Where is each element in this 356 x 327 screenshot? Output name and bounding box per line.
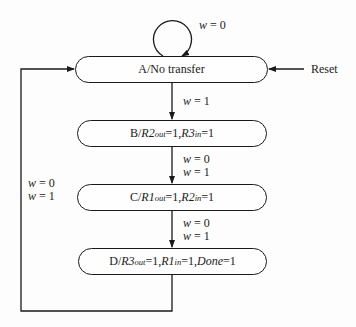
state-c-name: C [130,190,138,205]
state-c: C/R1out = 1, R2in = 1 [77,184,267,211]
state-d-name: D [109,254,118,269]
state-a: A/No transfer [75,56,268,83]
label-a-to-b: w = 1 [183,95,210,107]
label-d-to-a-w0: w = 0 [28,177,55,189]
label-b-to-c-w1: w = 1 [183,166,210,178]
state-diagram: A/No transfer B/R2out = 1, R3in = 1 C/R1… [0,0,356,327]
label-c-to-d-w1: w = 1 [183,230,210,242]
state-b-name: B [130,126,138,141]
label-a-self-loop: w = 0 [199,19,226,31]
state-b: B/R2out = 1, R3in = 1 [77,120,267,147]
self-loop-a-edge [153,21,191,56]
state-d: D/R3out = 1, R1in = 1, Done = 1 [78,248,267,275]
label-d-to-a-w1: w = 1 [28,190,55,202]
label-reset: Reset [311,63,338,75]
transition-edges [0,0,356,327]
label-c-to-d-w0: w = 0 [183,217,210,229]
state-a-output: No transfer [150,62,204,77]
state-a-name: A [138,62,147,77]
label-b-to-c-w0: w = 0 [183,153,210,165]
